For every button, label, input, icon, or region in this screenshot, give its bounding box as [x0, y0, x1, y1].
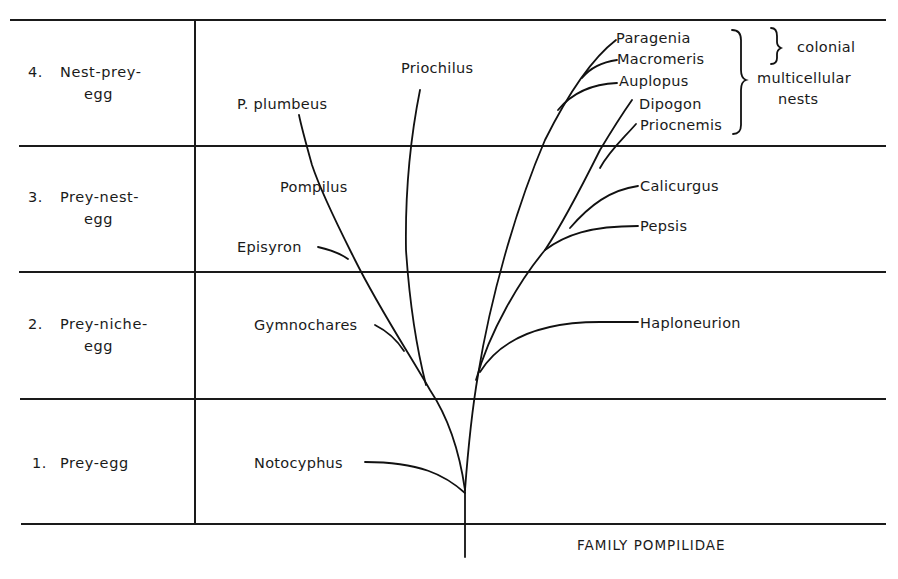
stage-name: Prey-niche- — [60, 316, 148, 332]
branch-notocyphus — [365, 462, 465, 493]
taxon-dipogon: Dipogon — [639, 96, 702, 112]
stage-name-cont: egg — [84, 86, 113, 102]
stage-2-label: 2. Prey-niche- egg — [28, 316, 148, 354]
taxon-priocnemis: Priocnemis — [640, 117, 722, 133]
stage-name: Nest-prey- — [60, 64, 142, 80]
stage-4-label: 4. Nest-prey- egg — [28, 64, 142, 102]
stage-3-label: 3. Prey-nest- egg — [28, 189, 139, 227]
stage-number: 4. — [28, 64, 43, 80]
stage-name-cont: egg — [84, 338, 113, 354]
stage-labels: 4. Nest-prey- egg 3. Prey-nest- egg 2. P… — [28, 64, 148, 471]
label-multicellular: multicellular — [757, 70, 851, 86]
taxon-gymnochares: Gymnochares — [254, 317, 357, 333]
taxon-episyron: Episyron — [237, 239, 302, 255]
stage-number: 1. — [32, 455, 47, 471]
phylogeny-diagram: 4. Nest-prey- egg 3. Prey-nest- egg 2. P… — [0, 0, 898, 579]
stage-name: Prey-egg — [60, 455, 129, 471]
taxon-labels: P. plumbeus Priochilus Pompilus Episyron… — [237, 30, 741, 471]
branch-right-limb — [465, 40, 616, 490]
label-nests: nests — [778, 91, 818, 107]
taxon-notocyphus: Notocyphus — [254, 455, 343, 471]
grid-lines — [10, 20, 886, 524]
taxon-paragenia: Paragenia — [616, 30, 691, 46]
branch-priochilus — [406, 90, 426, 385]
taxon-auplopus: Auplopus — [619, 73, 689, 89]
phylogenetic-tree — [299, 40, 638, 557]
branch-left-limb — [299, 115, 465, 490]
taxon-haploneurion: Haploneurion — [640, 315, 741, 331]
stage-1-label: 1. Prey-egg — [32, 455, 129, 471]
stage-number: 2. — [28, 316, 43, 332]
branch-episyron — [318, 247, 348, 259]
branch-haploneurion — [480, 322, 638, 372]
label-colonial: colonial — [797, 39, 855, 55]
family-title: FAMILY POMPILIDAE — [577, 537, 726, 553]
taxon-calicurgus: Calicurgus — [640, 178, 719, 194]
taxon-pompilus: Pompilus — [280, 179, 348, 195]
brace-colonial-icon — [771, 28, 781, 64]
branch-calicurgus — [570, 186, 638, 228]
stage-name-cont: egg — [84, 211, 113, 227]
taxon-priochilus: Priochilus — [401, 60, 473, 76]
brace-multicellular-icon — [732, 30, 746, 134]
taxon-pepsis: Pepsis — [640, 218, 687, 234]
branch-pepsis — [545, 226, 638, 250]
stage-number: 3. — [28, 189, 43, 205]
nest-annotations: colonial multicellular nests — [732, 28, 855, 134]
taxon-p-plumbeus: P. plumbeus — [237, 96, 327, 112]
branch-pepsis-limb — [476, 100, 632, 380]
stage-name: Prey-nest- — [60, 189, 139, 205]
taxon-macromeris: Macromeris — [617, 51, 704, 67]
branch-auplopus — [558, 83, 617, 110]
